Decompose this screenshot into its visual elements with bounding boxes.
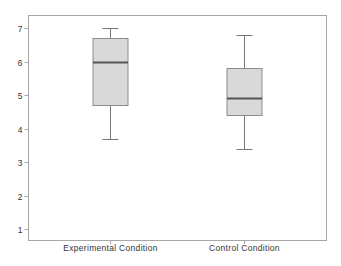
y-tick-label: 3 bbox=[18, 158, 23, 168]
plot-frame bbox=[29, 16, 327, 241]
iqr-box bbox=[93, 39, 128, 106]
y-tick-label: 6 bbox=[18, 58, 23, 68]
x-category-label: Experimental Condition bbox=[63, 243, 157, 253]
box-plot-chart: 1234567 Experimental ConditionControl Co… bbox=[0, 0, 341, 266]
y-axis: 1234567 bbox=[18, 24, 29, 235]
y-tick-label: 7 bbox=[18, 24, 23, 34]
y-tick-label: 4 bbox=[18, 125, 23, 135]
y-tick-label: 1 bbox=[18, 225, 23, 235]
x-category-label: Control Condition bbox=[209, 243, 280, 253]
y-tick-label: 5 bbox=[18, 91, 23, 101]
iqr-box bbox=[227, 69, 262, 116]
x-axis: Experimental ConditionControl Condition bbox=[63, 241, 280, 254]
y-tick-label: 2 bbox=[18, 192, 23, 202]
